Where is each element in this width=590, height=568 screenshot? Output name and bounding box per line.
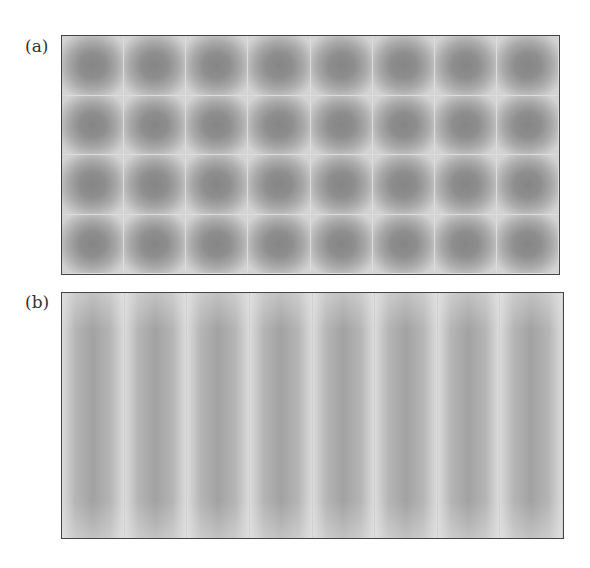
domain-cell [248,96,310,156]
domain-cell [373,36,435,96]
panel-a-grid [61,35,560,275]
domain-cell [124,215,186,275]
stripe-cell [250,293,313,538]
stripe-cell [187,293,250,538]
domain-cell [62,96,124,156]
stripe-cell [313,293,376,538]
panel-a-label: (a) [25,36,48,56]
domain-cell [497,155,559,215]
stripe-cell [62,293,125,538]
domain-cell [497,215,559,275]
domain-cell [186,96,248,156]
domain-cell [62,155,124,215]
domain-cell [62,36,124,96]
domain-cell [311,36,373,96]
stripe-cell [125,293,188,538]
domain-cell [186,36,248,96]
domain-cell [497,36,559,96]
domain-cell [311,155,373,215]
domain-cell [124,96,186,156]
domain-cell [373,155,435,215]
stripe-cell [375,293,438,538]
domain-cell [248,155,310,215]
domain-cell [435,215,497,275]
domain-cell [311,215,373,275]
domain-cell [248,36,310,96]
domain-cell [248,215,310,275]
domain-cell [435,36,497,96]
domain-cell [435,96,497,156]
domain-cell [124,36,186,96]
domain-cell [373,215,435,275]
panel-b-label: (b) [25,292,49,312]
domain-cell [62,215,124,275]
domain-cell [373,96,435,156]
stripe-cell [438,293,501,538]
domain-cell [124,155,186,215]
domain-cell [497,96,559,156]
domain-cell [311,96,373,156]
stripe-cell [500,293,563,538]
domain-cell [435,155,497,215]
domain-cell [186,215,248,275]
domain-cell [186,155,248,215]
panel-b-stripes [61,292,564,539]
